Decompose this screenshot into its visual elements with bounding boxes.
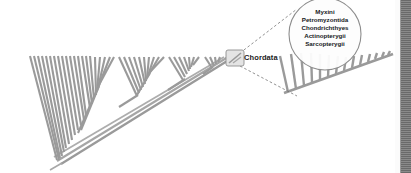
tree-branch <box>119 57 137 96</box>
magnified-branch <box>360 55 362 65</box>
magnified-branch <box>291 54 296 89</box>
tree-branch <box>215 57 216 64</box>
tree-branch <box>191 57 194 67</box>
tree-root <box>50 163 62 170</box>
tree-branch <box>189 57 190 69</box>
magnified-branch <box>368 54 370 62</box>
callout-source-box[interactable] <box>226 50 244 66</box>
magnifier-lens-fill <box>289 0 361 70</box>
magnified-branch <box>375 53 377 59</box>
clade-label-chordata: Chordata <box>244 53 278 63</box>
connector-line-top <box>240 9 297 53</box>
magnifier-lens[interactable] <box>289 0 361 70</box>
tree-branch <box>95 57 96 95</box>
tree-canvas <box>0 0 411 173</box>
magnified-branch <box>280 56 288 92</box>
connector-line-bottom <box>240 66 297 96</box>
main-tree-group <box>30 56 232 170</box>
tree-branch <box>119 95 138 107</box>
vertical-scrollbar[interactable] <box>400 0 411 173</box>
phylogenetic-tree-figure: Chordata Myxini Petromyzontida Chondrich… <box>0 0 411 173</box>
